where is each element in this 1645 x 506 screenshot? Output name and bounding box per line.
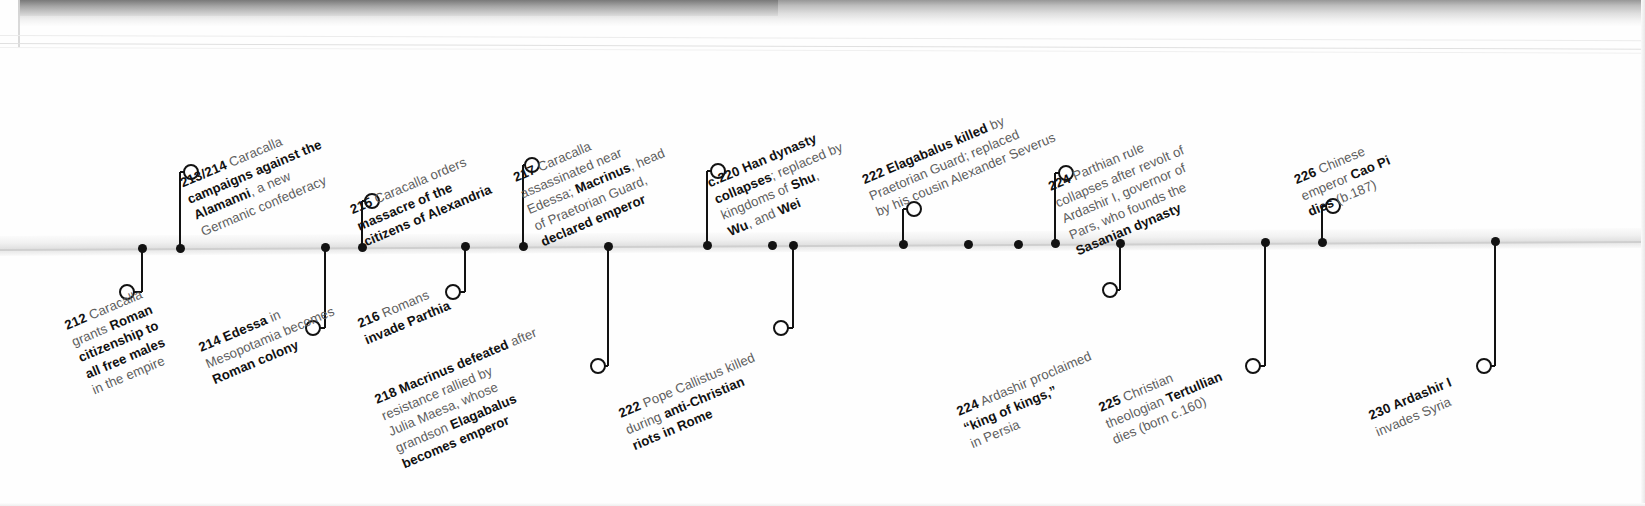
- event-marker-ring[interactable]: [1245, 358, 1261, 374]
- event-label-e225: 225 Christiantheologian Tertulliandies (…: [1096, 351, 1232, 448]
- event-label-e230: 230 Ardashir Iinvades Syria: [1366, 373, 1461, 440]
- event-marker-ring[interactable]: [1102, 282, 1118, 298]
- page-rule-1: [0, 35, 1645, 41]
- connector-stem: [607, 246, 609, 366]
- scan-right-edge: [1641, 0, 1645, 506]
- event-label-e212: 212 Caracallagrants Romancitizenship toa…: [62, 284, 176, 398]
- event-label-e220: c.220 Han dynastycollapses; replaced byk…: [705, 122, 859, 240]
- connector-elbow: [1484, 365, 1495, 367]
- timeline-tick-dot: [964, 240, 973, 249]
- event-marker-ring[interactable]: [1476, 358, 1492, 374]
- event-label-e222elag: 222 Elagabalus killed byPraetorian Guard…: [859, 96, 1058, 220]
- event-marker-ring[interactable]: [773, 320, 789, 336]
- event-label-e216: 216 Romansinvade Parthia: [355, 280, 453, 348]
- connector-elbow: [1253, 365, 1265, 367]
- connector-elbow: [781, 327, 793, 329]
- timeline-axis: [0, 228, 1645, 264]
- connector-elbow: [1110, 289, 1120, 291]
- event-label-e222pope: 222 Pope Callistus killedduring anti-Chr…: [616, 349, 771, 455]
- event-label-e218: 218 Macrinus defeated afterresistance ra…: [372, 324, 567, 473]
- connector-elbow: [453, 291, 465, 293]
- connector-stem: [1494, 242, 1496, 366]
- scan-top-shadow-dark: [18, 0, 778, 16]
- timeline-tick-dot: [768, 241, 777, 250]
- event-label-e217: 217 Caracallaassassinated nearEdessa; Ma…: [511, 112, 682, 251]
- scan-top-shadow: [18, 0, 1645, 26]
- event-label-e226: 226 Chineseemperor Cao Pidies (b.187): [1291, 135, 1399, 221]
- event-label-e214: 214 Edessa inMesopotamia becomesRoman co…: [196, 286, 344, 388]
- timeline-page: 212 Caracallagrants Romancitizenship toa…: [0, 0, 1645, 506]
- event-marker-ring[interactable]: [590, 358, 606, 374]
- scan-left-edge: [18, 0, 20, 48]
- event-label-e213: 213/214 Caracallacampaigns against theAl…: [178, 119, 338, 240]
- timeline-tick-dot: [1014, 240, 1023, 249]
- event-label-e224ard: 224 Ardashir proclaimed“king of kings,”i…: [954, 347, 1108, 452]
- connector-stem: [1264, 243, 1266, 366]
- connector-elbow: [598, 365, 608, 367]
